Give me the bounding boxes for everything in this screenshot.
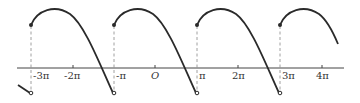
curve-segment-4 [280,9,338,44]
dashed-guides [31,26,280,92]
tick-label-4pi: 4π [316,70,329,81]
tick-label-neg3pi: -3π [33,70,50,81]
curve-segment-left [18,85,30,93]
tick-label-pi: π [199,70,206,81]
graph-svg: -3π -2π -π O π 2π 3π 4π [0,0,360,103]
tick-label-2pi: 2π [232,70,245,81]
tick-label-neg2pi: -2π [64,70,81,81]
open-endpoints [29,91,282,95]
origin-label: O [151,70,159,81]
tick-label-negpi: -π [116,70,126,81]
function-graph: -3π -2π -π O π 2π 3π 4π [0,0,360,103]
tick-label-3pi: 3π [282,70,295,81]
